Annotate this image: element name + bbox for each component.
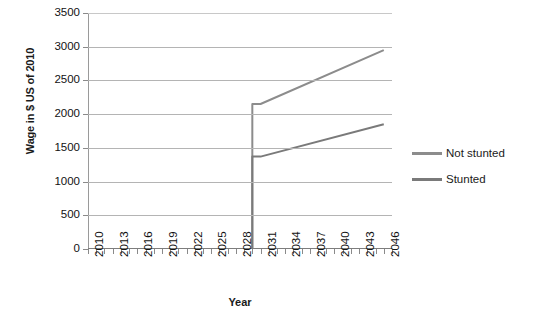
wage-projection-line-chart: Wage in $ US of 2010 3500300025002000150… bbox=[0, 0, 538, 320]
x-tick-label: 2037 bbox=[315, 231, 327, 257]
x-tick-label: 2010 bbox=[93, 231, 105, 257]
y-tick-mark bbox=[83, 47, 88, 48]
gridline bbox=[88, 114, 392, 115]
x-tick-label: 2040 bbox=[339, 231, 351, 257]
plot-area bbox=[88, 13, 392, 249]
x-tick-label: 2046 bbox=[389, 231, 401, 257]
x-tick-mark bbox=[261, 249, 262, 254]
legend-label-not-stunted: Not stunted bbox=[446, 147, 505, 159]
series-line bbox=[252, 124, 383, 249]
x-tick-label: 2031 bbox=[266, 231, 278, 257]
y-tick-label: 2500 bbox=[34, 74, 80, 85]
gridline bbox=[88, 13, 392, 14]
x-tick-mark bbox=[137, 249, 138, 254]
y-tick-label: 2000 bbox=[34, 108, 80, 119]
y-tick-mark bbox=[83, 80, 88, 81]
gridline bbox=[88, 47, 392, 48]
x-tick-label: 2016 bbox=[142, 231, 154, 257]
y-tick-label: 0 bbox=[34, 243, 80, 254]
y-tick-label: 3500 bbox=[34, 7, 80, 18]
gridline bbox=[88, 80, 392, 81]
x-axis-title: Year bbox=[88, 296, 392, 308]
x-tick-mark bbox=[187, 249, 188, 254]
x-tick-mark bbox=[351, 249, 352, 254]
x-tick-label: 2025 bbox=[216, 231, 228, 257]
x-tick-label: 2028 bbox=[241, 231, 253, 257]
y-tick-mark bbox=[83, 13, 88, 14]
x-tick-mark bbox=[334, 249, 335, 254]
legend-item-not-stunted: Not stunted bbox=[412, 140, 536, 166]
y-tick-label: 1500 bbox=[34, 142, 80, 153]
legend-swatch-not-stunted bbox=[412, 152, 442, 155]
y-tick-mark bbox=[83, 182, 88, 183]
y-tick-mark bbox=[83, 148, 88, 149]
x-tick-label: 2043 bbox=[364, 231, 376, 257]
chart-legend: Not stunted Stunted bbox=[412, 140, 536, 192]
gridline bbox=[88, 148, 392, 149]
x-tick-label: 2019 bbox=[167, 231, 179, 257]
x-tick-mark bbox=[113, 249, 114, 254]
y-tick-label: 500 bbox=[34, 209, 80, 220]
x-tick-mark bbox=[88, 249, 89, 254]
x-tick-mark bbox=[236, 249, 237, 254]
x-tick-label: 2034 bbox=[290, 231, 302, 257]
legend-swatch-stunted bbox=[412, 178, 442, 181]
y-axis-tick-labels: 3500300025002000150010005000 bbox=[34, 0, 80, 320]
gridline bbox=[88, 182, 392, 183]
series-lines bbox=[88, 13, 392, 249]
x-tick-mark bbox=[359, 249, 360, 254]
y-tick-label: 1000 bbox=[34, 176, 80, 187]
x-tick-mark bbox=[285, 249, 286, 254]
x-tick-mark bbox=[310, 249, 311, 254]
x-tick-mark bbox=[211, 249, 212, 254]
x-tick-mark bbox=[384, 249, 385, 254]
y-tick-mark bbox=[83, 215, 88, 216]
legend-label-stunted: Stunted bbox=[446, 173, 486, 185]
y-tick-mark bbox=[83, 114, 88, 115]
y-tick-label: 3000 bbox=[34, 41, 80, 52]
x-tick-label: 2022 bbox=[192, 231, 204, 257]
x-tick-mark bbox=[162, 249, 163, 254]
gridline bbox=[88, 215, 392, 216]
x-tick-label: 2013 bbox=[118, 231, 130, 257]
legend-item-stunted: Stunted bbox=[412, 166, 536, 192]
